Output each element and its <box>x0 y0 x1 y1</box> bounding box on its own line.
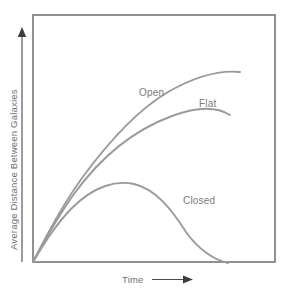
chart-canvas: Average Distance Between Galaxies Time O… <box>0 0 293 292</box>
cosmology-expansion-figure: Average Distance Between Galaxies Time O… <box>0 0 293 292</box>
curve-label-closed: Closed <box>183 195 215 206</box>
y-axis-label: Average Distance Between Galaxies <box>8 89 19 250</box>
curve-label-open: Open <box>139 87 164 98</box>
curve-label-flat: Flat <box>199 98 216 109</box>
figure-background <box>0 0 293 292</box>
x-axis-label: Time <box>122 274 144 285</box>
